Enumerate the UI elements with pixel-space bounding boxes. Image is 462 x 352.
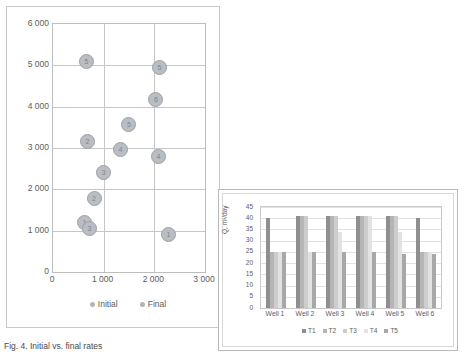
bar-legend-swatch-icon (343, 329, 347, 333)
bar-y-tick-label: 40 (237, 214, 253, 221)
bar-legend-item: T3 (343, 327, 357, 334)
scatter-gridline-horizontal (53, 65, 205, 66)
bar-chart-panel: Q, m³/day 051015202530354045 Well 1Well … (218, 189, 458, 351)
bar-y-tick-label: 5 (237, 292, 253, 299)
scatter-x-tick-label: 2 000 (130, 275, 176, 284)
scatter-y-tick-label: 6 000 (7, 19, 49, 28)
bar-segment (342, 252, 346, 308)
scatter-y-tick-label: 5 000 (7, 60, 49, 69)
scatter-legend-swatch-icon (90, 302, 95, 307)
bar-legend-item: T4 (364, 327, 378, 334)
scatter-legend: InitialFinal (52, 299, 204, 309)
scatter-gridline-horizontal (53, 189, 205, 190)
scatter-plot-area: 523213565441 (52, 23, 206, 273)
scatter-y-tick-label: 3 000 (7, 143, 49, 152)
scatter-gridline-horizontal (53, 231, 205, 232)
bar-legend-item: T2 (323, 327, 337, 334)
bar-legend-swatch-icon (323, 329, 327, 333)
bar-group (381, 207, 411, 308)
scatter-x-tick-label: 0 (29, 275, 75, 284)
scatter-legend-swatch-icon (140, 302, 145, 307)
bar-legend-label: T5 (390, 327, 398, 334)
bar-segment (282, 252, 286, 308)
bar-plot-area (260, 206, 442, 309)
bar-x-tick-label: Well 5 (380, 310, 410, 318)
scatter-legend-item: Initial (90, 299, 118, 309)
bar-legend-label: T4 (370, 327, 378, 334)
bar-legend-label: T1 (308, 327, 316, 334)
scatter-x-tick-label: 1 000 (80, 275, 126, 284)
bar-y-axis-title: Q, m³/day (221, 205, 228, 234)
bar-legend-item: T5 (384, 327, 398, 334)
scatter-y-tick-label: 4 000 (7, 102, 49, 111)
bar-y-tick-label: 10 (237, 281, 253, 288)
bar-x-tick-label: Well 2 (290, 310, 320, 318)
bar-group (291, 207, 321, 308)
bar-chart-inner-frame: Q, m³/day 051015202530354045 Well 1Well … (222, 193, 454, 347)
bar-group (321, 207, 351, 308)
scatter-point: 4 (151, 149, 166, 164)
bar-y-tick-label: 20 (237, 259, 253, 266)
bar-legend-label: T3 (349, 327, 357, 334)
bar-segment (432, 254, 436, 308)
scatter-point: 2 (87, 191, 102, 206)
bar-legend-swatch-icon (384, 329, 388, 333)
bar-legend-label: T2 (329, 327, 337, 334)
bar-legend: T1T2T3T4T5 (260, 327, 440, 334)
scatter-point: 4 (113, 142, 128, 157)
scatter-legend-label: Final (148, 299, 166, 309)
scatter-point: 5 (79, 54, 94, 69)
scatter-point: 5 (121, 117, 136, 132)
bar-group (411, 207, 441, 308)
bar-y-tick-label: 45 (237, 203, 253, 210)
bar-group (261, 207, 291, 308)
scatter-point: 5 (152, 60, 167, 75)
scatter-legend-label: Initial (98, 299, 118, 309)
scatter-chart-panel: 523213565441 01 0002 0003 0004 0005 0006… (6, 6, 220, 328)
bar-x-tick-label: Well 3 (320, 310, 350, 318)
bar-group (351, 207, 381, 308)
scatter-gridline-horizontal (53, 107, 205, 108)
figure-caption: Fig. 4. Initial vs. final rates (4, 341, 102, 351)
bar-y-tick-label: 35 (237, 225, 253, 232)
scatter-point: 3 (82, 221, 97, 236)
bar-y-tick-label: 0 (237, 304, 253, 311)
bar-y-tick-label: 30 (237, 236, 253, 243)
bar-legend-swatch-icon (302, 329, 306, 333)
bar-segment (312, 252, 316, 308)
scatter-gridline-horizontal (53, 148, 205, 149)
scatter-point: 3 (96, 165, 111, 180)
bar-x-tick-label: Well 6 (410, 310, 440, 318)
scatter-legend-item: Final (140, 299, 166, 309)
bar-x-tick-label: Well 1 (260, 310, 290, 318)
scatter-point: 2 (80, 134, 95, 149)
scatter-y-tick-label: 1 000 (7, 226, 49, 235)
scatter-y-tick-label: 2 000 (7, 184, 49, 193)
bar-x-tick-label: Well 4 (350, 310, 380, 318)
bar-segment (372, 252, 376, 308)
bar-legend-item: T1 (302, 327, 316, 334)
scatter-point: 6 (148, 92, 163, 107)
bar-segment (402, 254, 406, 308)
scatter-point: 1 (161, 227, 176, 242)
bar-legend-swatch-icon (364, 329, 368, 333)
bar-y-tick-label: 25 (237, 247, 253, 254)
bar-y-tick-label: 15 (237, 270, 253, 277)
